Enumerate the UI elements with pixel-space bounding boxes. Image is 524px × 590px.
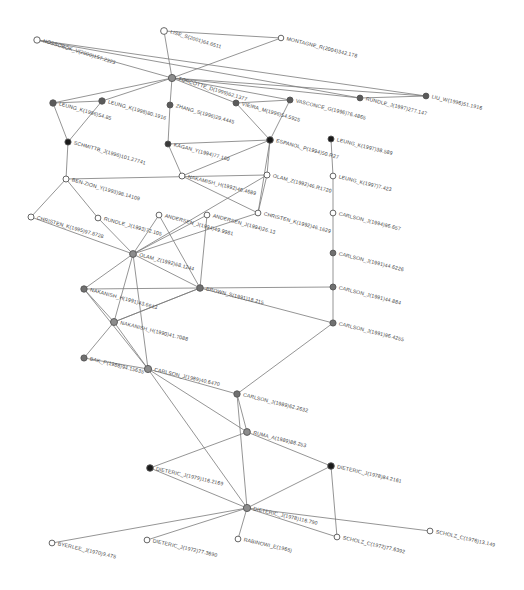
graph-node-label: CARLSON_J(1994)96.657	[338, 210, 402, 231]
graph-node-label: RUNDLE_J(1993)72.105	[103, 215, 163, 236]
graph-edge	[148, 369, 247, 508]
graph-node-label: CARLSON_J(1989)62.2632	[242, 391, 308, 413]
graph-edge	[31, 179, 66, 217]
graph-node[interactable]	[65, 139, 71, 145]
graph-node-label: DIETERIC_J(1978)84.2161	[337, 463, 403, 484]
graph-edge	[84, 254, 133, 289]
graph-edge	[331, 466, 337, 537]
graph-node-label: CARLSON_J(1989)40.6470	[154, 366, 221, 387]
graph-node[interactable]	[49, 540, 55, 546]
graph-node-label: MONTAGNE_R(2004)342.178	[286, 35, 358, 58]
graph-node[interactable]	[427, 528, 433, 534]
graph-node[interactable]	[81, 286, 87, 292]
graph-node[interactable]	[63, 176, 69, 182]
graph-node-label: DIETERIC_J(1972)77.3690	[152, 537, 218, 558]
graph-edge	[102, 78, 172, 101]
graph-node[interactable]	[235, 536, 241, 542]
graph-node-label: SCHOLZ_C(1972)77.6392	[342, 534, 406, 554]
graph-edge	[258, 175, 267, 213]
graph-node-label: CARLSON_J(1991)96.4255	[338, 320, 404, 342]
graph-node-label: LEUNG_K(1997)7.423	[338, 173, 392, 192]
graph-node[interactable]	[330, 250, 336, 256]
graph-node-label: TORCOTTE_D(1999)62.1377	[178, 75, 248, 102]
graph-node[interactable]	[334, 534, 340, 540]
graph-edge	[237, 323, 333, 394]
graph-node[interactable]	[278, 35, 284, 41]
graph-node[interactable]	[197, 285, 204, 292]
graph-node[interactable]	[168, 74, 175, 81]
graph-edge	[66, 142, 68, 179]
graph-node-label: CHRISTEN_K(1995)97.8728	[36, 214, 104, 239]
citation-network-figure: HOSSOBOK_V(2000)157.2323LISE_S(2001)64.6…	[0, 0, 524, 590]
graph-edge	[247, 466, 331, 508]
graph-edge	[37, 40, 360, 98]
graph-edge	[150, 432, 247, 468]
graph-node-label: BROWN_S(1991)18.215	[206, 285, 265, 305]
graph-node[interactable]	[81, 355, 87, 361]
nodes-layer	[28, 28, 433, 546]
graph-node[interactable]	[328, 136, 334, 142]
graph-node-label: NAKANISH_H(1990)41.7088	[120, 319, 189, 342]
graph-node[interactable]	[28, 214, 34, 220]
graph-node-label: CARLSON_J(1991)44.6226	[338, 250, 404, 272]
graph-node[interactable]	[34, 37, 40, 43]
graph-node[interactable]	[234, 391, 240, 397]
graph-node[interactable]	[161, 28, 168, 35]
graph-node[interactable]	[144, 537, 150, 543]
graph-edge	[238, 508, 247, 539]
graph-node-label: BAK_P(1988)94.15635	[89, 355, 144, 374]
graph-node[interactable]	[156, 212, 162, 218]
graph-node[interactable]	[50, 100, 56, 106]
network-graph-canvas: HOSSOBOK_V(2000)157.2323LISE_S(2001)64.6…	[0, 0, 524, 590]
graph-node[interactable]	[243, 504, 250, 511]
graph-node[interactable]	[179, 173, 185, 179]
graph-node[interactable]	[357, 95, 363, 101]
graph-edge	[52, 508, 247, 543]
graph-node-label: SCHMITTB_J(1996)101.27741	[73, 139, 146, 165]
graph-edge	[84, 322, 114, 358]
graph-node[interactable]	[330, 320, 336, 326]
graph-edge	[147, 508, 247, 540]
graph-node[interactable]	[330, 173, 336, 179]
graph-node[interactable]	[267, 137, 274, 144]
graph-edge	[66, 175, 267, 179]
graph-node-label: LEUNG_K(1998)80.1916	[107, 98, 167, 120]
graph-node[interactable]	[233, 100, 239, 106]
graph-node[interactable]	[111, 319, 118, 326]
graph-edge	[170, 78, 172, 105]
graph-edge	[164, 31, 172, 78]
graph-edge	[114, 254, 133, 322]
graph-node-label: DIETERIC_J(1979)116.2169	[156, 465, 224, 486]
graph-node-label: LIU_W(1996)51.1916	[431, 93, 483, 110]
graph-node-label: VIEIRA_M(1996)54.5925	[241, 100, 301, 122]
graph-node[interactable]	[147, 465, 154, 472]
graph-node[interactable]	[165, 141, 171, 147]
graph-node[interactable]	[244, 429, 251, 436]
graph-node[interactable]	[204, 212, 210, 218]
graph-node[interactable]	[330, 284, 336, 290]
graph-node-label: LEUNG_K(1997)38.589	[336, 136, 393, 156]
graph-node-label: CARLSON_J(1991)44.884	[338, 284, 402, 305]
graph-node[interactable]	[95, 215, 101, 221]
graph-node[interactable]	[130, 251, 137, 258]
graph-node[interactable]	[167, 102, 173, 108]
graph-node[interactable]	[255, 210, 261, 216]
graph-node[interactable]	[264, 172, 270, 178]
graph-node-label: RABINOWI_E(1965)	[243, 536, 293, 553]
graph-node-label: OLAM_Z(1992)68.1244	[139, 251, 195, 271]
graph-node[interactable]	[328, 463, 335, 470]
graph-node-label: NAKAMISH_H(1992)46.4689	[187, 173, 257, 196]
graph-edge	[168, 105, 170, 144]
graph-node[interactable]	[99, 98, 105, 104]
graph-node[interactable]	[287, 97, 293, 103]
graph-node[interactable]	[330, 210, 336, 216]
graph-edge	[270, 100, 290, 140]
graph-node-label: SCHOLZ_C(1976)13.149	[435, 528, 496, 548]
graph-node[interactable]	[144, 365, 151, 372]
graph-node-label: VASCONCE_G(1996)76.4865	[295, 97, 366, 120]
graph-node[interactable]	[423, 93, 429, 99]
graph-node-label: OLAM_Z(1992)46.R1720	[272, 172, 332, 193]
graph-node-label: LISE_S(2001)64.6511	[170, 28, 223, 49]
labels-layer: HOSSOBOK_V(2000)157.2323LISE_S(2001)64.6…	[36, 28, 496, 559]
graph-edge	[237, 394, 247, 508]
